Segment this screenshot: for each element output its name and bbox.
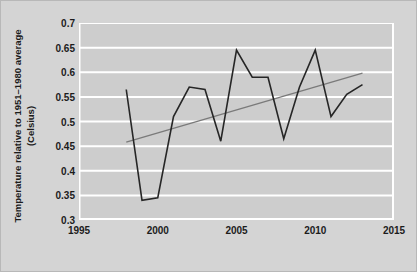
y-tick-label: 0.6 (41, 67, 75, 78)
y-tick-label: 0.45 (41, 141, 75, 152)
x-tick-label: 2005 (225, 225, 247, 236)
y-axis-title-line-2: (Celsius) (25, 106, 36, 146)
x-tick-label: 2010 (304, 225, 326, 236)
x-tick-label: 2015 (383, 225, 405, 236)
y-axis-title-line-1: Temperature relative to 1951–1980 averag… (12, 29, 23, 222)
y-tick-label: 0.7 (41, 18, 75, 29)
x-tick-label: 2000 (147, 225, 169, 236)
y-tick-label: 0.5 (41, 116, 75, 127)
y-tick-label: 0.4 (41, 165, 75, 176)
x-axis-tick-labels: 19952000200520102015 (79, 225, 394, 241)
y-axis-tick-labels: 0.30.350.40.450.50.550.60.650.7 (39, 23, 75, 220)
y-tick-label: 0.3 (41, 215, 75, 226)
chart-figure: Temperature relative to 1951–1980 averag… (0, 0, 417, 272)
y-tick-label: 0.55 (41, 91, 75, 102)
y-axis-title-text: Temperature relative to 1951–1980 averag… (11, 29, 37, 222)
chart-svg (79, 23, 394, 220)
x-tick-label: 1995 (68, 225, 90, 236)
y-tick-label: 0.65 (41, 42, 75, 53)
plot-area (79, 23, 394, 220)
trend-line (126, 73, 362, 142)
y-tick-label: 0.35 (41, 190, 75, 201)
